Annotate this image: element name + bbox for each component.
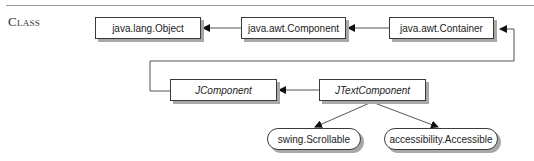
class-java-lang-object: java.lang.Object	[95, 17, 201, 39]
class-jtextcomponent: JTextComponent	[319, 79, 426, 101]
interface-accessibility-accessible: accessibility.Accessible	[384, 128, 498, 150]
class-java-awt-container: java.awt.Container	[389, 17, 494, 39]
class-java-awt-component: java.awt.Component	[241, 17, 346, 39]
class-jcomponent: JComponent	[170, 79, 277, 101]
interface-swing-scrollable: swing.Scrollable	[267, 128, 361, 150]
